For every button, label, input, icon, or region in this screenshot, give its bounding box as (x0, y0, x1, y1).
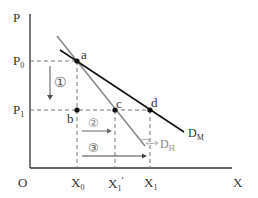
point-a-label: a (81, 48, 87, 61)
point-d-label: d (151, 96, 158, 109)
x1-prime-label: X1′ (108, 176, 124, 193)
x1-label: X1 (144, 176, 157, 192)
point-b (74, 107, 79, 112)
dh-curve (57, 36, 145, 146)
arrow-1-head (47, 95, 53, 100)
point-c-label: c (116, 97, 122, 110)
p1-label: P1 (13, 103, 24, 119)
p0-label: P0 (13, 54, 24, 70)
y-axis-label: P (13, 11, 20, 24)
dm-label: DM (188, 127, 204, 142)
point-a (74, 58, 79, 63)
x0-label: X0 (71, 176, 84, 192)
x-axis-label: X (233, 176, 242, 189)
arrow-2-head (107, 129, 112, 134)
dh-label: DH (160, 138, 174, 153)
point-b-label: b (67, 112, 74, 125)
marker-2: ② (88, 117, 99, 129)
marker-1: ① (54, 76, 67, 90)
arrow-3-head (142, 154, 147, 159)
diagram-canvas (0, 0, 258, 198)
origin-label: O (18, 176, 27, 189)
marker-3: ③ (88, 142, 99, 154)
